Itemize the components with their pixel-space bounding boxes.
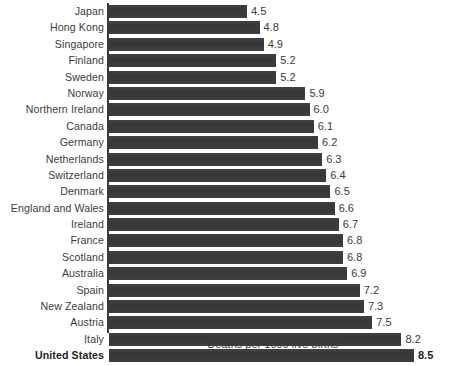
bar-row: Japan4.5 (0, 5, 465, 21)
value-label: 6.6 (339, 202, 354, 215)
value-label: 6.3 (326, 153, 341, 166)
value-label: 4.5 (251, 5, 266, 18)
bar-row: Norway5.9 (0, 87, 465, 103)
bar-row: Hong Kong4.8 (0, 21, 465, 37)
value-label: 6.0 (314, 103, 329, 116)
value-label: 7.3 (368, 300, 383, 313)
x-axis-label: Deaths per 1000 live births (108, 338, 438, 350)
category-label: Spain (76, 284, 104, 297)
bar-row: Spain7.2 (0, 284, 465, 300)
value-label: 4.9 (268, 38, 283, 51)
bar-row: United States8.5 (0, 349, 465, 365)
category-label: Italy (84, 333, 104, 346)
value-label: 6.5 (334, 185, 349, 198)
category-label: Australia (62, 267, 104, 280)
bar (109, 21, 260, 34)
bar-row: Finland5.2 (0, 54, 465, 70)
value-label: 7.2 (364, 284, 379, 297)
category-label: Hong Kong (50, 21, 104, 34)
bar (109, 38, 264, 51)
value-label: 6.7 (343, 218, 358, 231)
bar-row: Singapore4.9 (0, 38, 465, 54)
bar-row: France6.8 (0, 234, 465, 250)
bar-row: Germany6.2 (0, 136, 465, 152)
bar (109, 5, 247, 18)
bar-row: Australia6.9 (0, 267, 465, 283)
bar (109, 120, 314, 133)
bar (109, 71, 276, 84)
category-label: Denmark (60, 185, 104, 198)
value-label: 6.4 (330, 169, 345, 182)
bar-row: Ireland6.7 (0, 218, 465, 234)
bar (109, 54, 276, 67)
bar (109, 87, 305, 100)
category-label: Scotland (62, 251, 104, 264)
bar (109, 251, 343, 264)
bar (109, 349, 414, 362)
value-label: 6.1 (318, 120, 333, 133)
bar-row: Switzerland6.4 (0, 169, 465, 185)
category-label: Ireland (71, 218, 104, 231)
plot-area: Japan4.5Hong Kong4.8Singapore4.9Finland5… (0, 0, 465, 336)
value-label: 8.5 (418, 349, 433, 362)
category-label: Northern Ireland (26, 103, 104, 116)
bar-row: Canada6.1 (0, 120, 465, 136)
category-label: France (70, 234, 104, 247)
value-label: 6.8 (347, 251, 362, 264)
bar-row: Northern Ireland6.0 (0, 103, 465, 119)
bar-row: Sweden5.2 (0, 71, 465, 87)
value-label: 6.9 (351, 267, 366, 280)
category-label: Netherlands (46, 153, 104, 166)
value-label: 5.2 (280, 54, 295, 67)
category-label: Japan (75, 5, 104, 18)
category-label: United States (35, 349, 104, 362)
bar (109, 218, 339, 231)
bar (109, 284, 360, 297)
bar (109, 169, 326, 182)
value-label: 7.5 (376, 316, 391, 329)
bar-row: Denmark6.5 (0, 185, 465, 201)
bar (109, 202, 335, 215)
value-label: 4.8 (264, 21, 279, 34)
bar (109, 103, 310, 116)
category-label: New Zealand (40, 300, 104, 313)
category-label: Sweden (65, 71, 104, 84)
bar (109, 153, 322, 166)
category-label: Germany (60, 136, 104, 149)
value-label: 6.2 (322, 136, 337, 149)
bar-row: England and Wales6.6 (0, 202, 465, 218)
bar-row: Netherlands6.3 (0, 153, 465, 169)
value-label: 5.9 (309, 87, 324, 100)
category-label: England and Wales (11, 202, 104, 215)
category-label: Norway (67, 87, 104, 100)
bar-row: New Zealand7.3 (0, 300, 465, 316)
bar-row: Austria7.5 (0, 316, 465, 332)
category-label: Singapore (55, 38, 104, 51)
category-label: Austria (70, 316, 104, 329)
bar (109, 300, 364, 313)
bar (109, 136, 318, 149)
value-label: 5.2 (280, 71, 295, 84)
bar (109, 267, 347, 280)
bar (109, 185, 330, 198)
category-label: Finland (69, 54, 104, 67)
category-label: Switzerland (48, 169, 104, 182)
category-label: Canada (66, 120, 104, 133)
value-label: 6.8 (347, 234, 362, 247)
bar-rows: Japan4.5Hong Kong4.8Singapore4.9Finland5… (0, 5, 465, 366)
bar (109, 234, 343, 247)
bar-row: Scotland6.8 (0, 251, 465, 267)
bar (109, 316, 372, 329)
